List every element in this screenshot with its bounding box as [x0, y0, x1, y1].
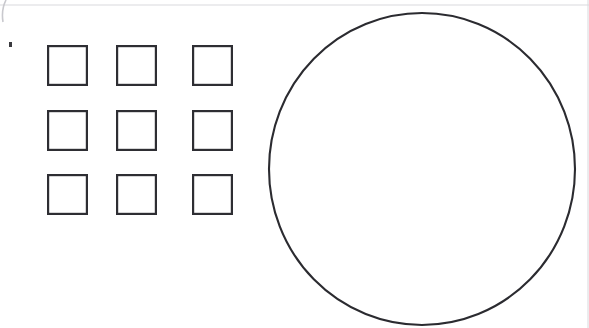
square-r3c3[interactable] [193, 175, 232, 214]
large-circle[interactable] [269, 13, 575, 325]
square-r3c1[interactable] [48, 175, 87, 214]
diagram-canvas: Shapes diagram: square grid and circle [0, 0, 589, 328]
square-r2c3[interactable] [193, 111, 232, 150]
square-r1c3[interactable] [193, 46, 232, 85]
shapes-svg-layer [0, 0, 589, 328]
square-r2c1[interactable] [48, 111, 87, 150]
square-grid [48, 46, 232, 214]
corner-arc-artifact [2, 0, 6, 22]
corner-dot-artifact [9, 42, 12, 47]
square-r2c2[interactable] [117, 111, 156, 150]
square-r1c2[interactable] [117, 46, 156, 85]
square-r1c1[interactable] [48, 46, 87, 85]
square-r3c2[interactable] [117, 175, 156, 214]
